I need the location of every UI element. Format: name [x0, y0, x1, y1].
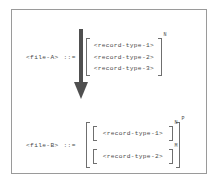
inner-bracket-group-2: <record-type-2>	[93, 149, 173, 164]
figure-border-frame: <file-A> ::= <record-type-1> <record-typ…	[11, 9, 207, 174]
repetition-group-a: <record-type-1> <record-type-2> <record-…	[86, 38, 162, 76]
outer-repetition-group-b: <record-type-1> N <record-type-2> M	[86, 122, 180, 168]
inner-right-square-bracket	[169, 149, 173, 164]
downward-transform-arrow	[73, 29, 89, 101]
production-b-lhs: <file-B>	[26, 142, 59, 149]
production-file-b: <file-B> ::= <record-type-1> N	[26, 122, 180, 168]
term-record-type-1: <record-type-1>	[90, 40, 158, 51]
production-file-a: <file-A> ::= <record-type-1> <record-typ…	[26, 38, 162, 76]
term-record-type-3: <record-type-3>	[90, 63, 158, 74]
term-record-type-2: <record-type-2>	[100, 153, 166, 160]
inner-group-1-body: <record-type-1>	[97, 126, 169, 141]
term-record-type-1: <record-type-1>	[100, 130, 166, 137]
inner-group-2-body: <record-type-2>	[97, 149, 169, 164]
right-square-bracket	[158, 38, 162, 76]
production-b-assign-operator: ::=	[64, 142, 76, 149]
repetition-exponent-n: N	[163, 33, 166, 38]
inner-bracket-group-1: <record-type-1>	[93, 126, 173, 141]
inner-repetition-exponent-n: N	[174, 121, 177, 126]
inner-right-square-bracket	[169, 126, 173, 141]
term-record-type-2: <record-type-2>	[90, 51, 158, 62]
inner-repetition-group-1: <record-type-1> N	[93, 126, 173, 141]
outer-repetition-exponent-p: P	[181, 117, 184, 122]
production-a-lhs: <file-A>	[26, 54, 59, 61]
outer-repetition-group-b-body: <record-type-1> N <record-type-2> M	[90, 122, 176, 168]
repetition-group-a-body: <record-type-1> <record-type-2> <record-…	[90, 38, 158, 76]
downward-transform-arrow-glyph	[73, 29, 89, 101]
inner-repetition-group-2: <record-type-2> M	[93, 149, 173, 164]
inner-repetition-exponent-m: M	[174, 144, 177, 149]
